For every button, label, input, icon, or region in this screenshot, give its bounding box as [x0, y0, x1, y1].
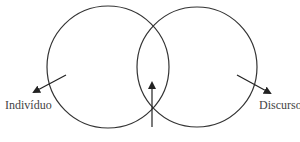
diagram-canvas — [0, 0, 300, 142]
left-arrow — [34, 75, 66, 92]
right-arrow — [237, 75, 270, 93]
right-circle — [137, 7, 257, 127]
left-circle — [47, 6, 169, 128]
venn-diagram: Indivíduo Discurso — [0, 0, 300, 142]
label-individuo: Indivíduo — [5, 98, 52, 113]
label-discurso: Discurso — [259, 98, 300, 113]
